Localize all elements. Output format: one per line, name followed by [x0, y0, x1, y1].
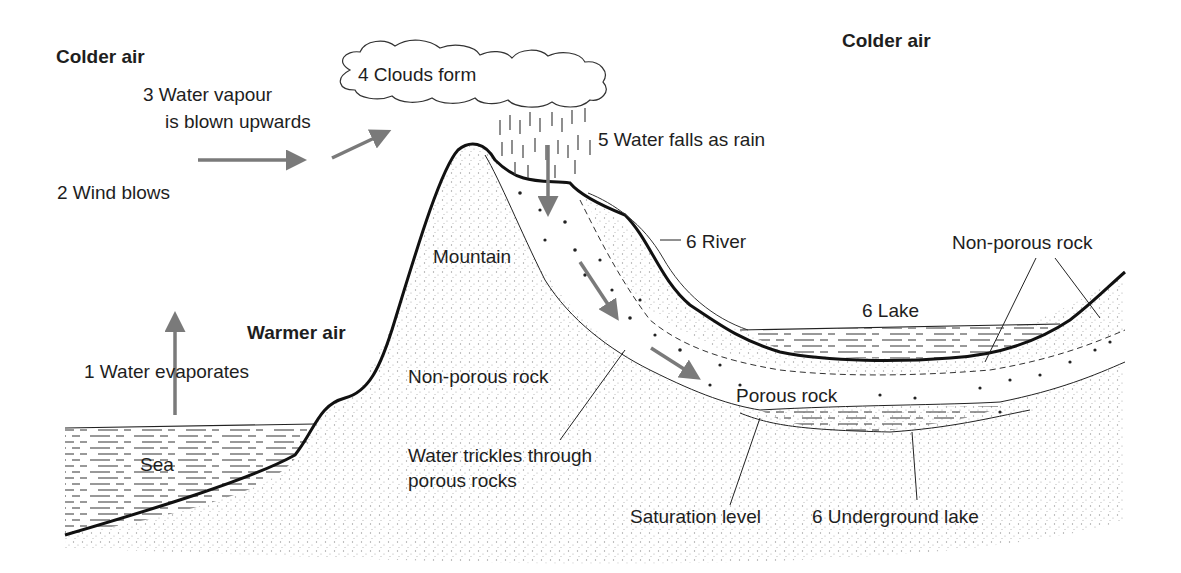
rain-icon	[500, 108, 590, 178]
colder-air-right-label: Colder air	[842, 30, 931, 52]
underground-lake-label: 6 Underground lake	[812, 506, 979, 528]
trickle-label-line1: Water trickles through	[408, 445, 592, 467]
vapour-rise-arrow-icon	[332, 133, 385, 158]
step-3-label-line2: is blown upwards	[165, 111, 311, 133]
non-porous-rock-left-label: Non-porous rock	[408, 366, 548, 388]
river-label: 6 River	[686, 231, 746, 253]
trickle-label-line2: porous rocks	[408, 470, 517, 492]
warmer-air-label: Warmer air	[247, 322, 346, 344]
lake-label: 6 Lake	[862, 300, 919, 322]
step-1-label: 1 Water evaporates	[84, 361, 249, 383]
colder-air-left-label: Colder air	[56, 46, 145, 68]
step-5-label: 5 Water falls as rain	[598, 129, 765, 151]
saturation-level-label: Saturation level	[630, 506, 761, 528]
mountain-label: Mountain	[433, 246, 511, 268]
porous-rock-label: Porous rock	[736, 385, 837, 407]
step-4-label: 4 Clouds form	[358, 64, 476, 86]
non-porous-rock-right-label: Non-porous rock	[952, 232, 1092, 254]
sea-label: Sea	[140, 454, 174, 476]
step-3-label-line1: 3 Water vapour	[143, 84, 272, 106]
step-2-label: 2 Wind blows	[57, 182, 170, 204]
